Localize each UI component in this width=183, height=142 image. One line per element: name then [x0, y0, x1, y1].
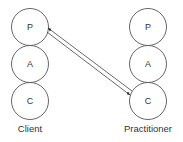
client-adult-letter: A	[27, 59, 33, 69]
client-child-letter: C	[27, 96, 34, 106]
practitioner-parent-state: P	[130, 9, 167, 46]
practitioner-parent-letter: P	[145, 22, 151, 32]
arrow-to-client-parent	[48, 28, 132, 91]
client-child-state: C	[12, 83, 49, 120]
client-parent-letter: P	[27, 22, 33, 32]
practitioner-ego-states: P A C Practitioner	[124, 9, 172, 135]
client-adult-state: A	[12, 46, 49, 83]
client-label: Client	[18, 123, 43, 134]
arrow-to-practitioner-child	[47, 32, 130, 95]
pac-diagram: P A C Client P A C Practitioner	[0, 0, 183, 142]
practitioner-adult-letter: A	[145, 59, 151, 69]
client-ego-states: P A C Client	[12, 9, 49, 135]
practitioner-adult-state: A	[130, 46, 167, 83]
client-parent-state: P	[12, 9, 49, 46]
practitioner-child-letter: C	[145, 96, 152, 106]
practitioner-label: Practitioner	[124, 123, 172, 134]
practitioner-child-state: C	[130, 83, 167, 120]
